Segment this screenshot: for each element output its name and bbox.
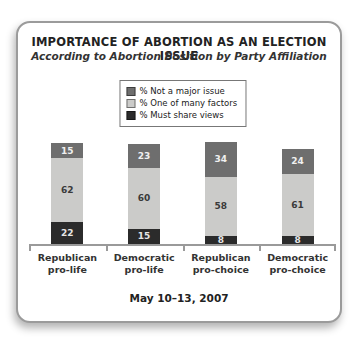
bar-segment: 23	[128, 144, 160, 168]
bar-segment: 58	[205, 177, 237, 236]
bar-segment: 22	[51, 222, 83, 244]
bar-segment: 8	[205, 236, 237, 244]
axis-tick	[334, 246, 336, 251]
x-axis-baseline	[29, 244, 336, 246]
category-label: Democraticpro-life	[106, 252, 183, 276]
bar-column: 236015	[106, 144, 183, 244]
category-labels: Republicanpro-lifeDemocraticpro-lifeRepu…	[29, 252, 336, 276]
bar-segment-value: 34	[215, 155, 228, 163]
bar-segment-value: 15	[138, 232, 151, 240]
stacked-bar: 24618	[282, 149, 314, 244]
bar-segment-value: 15	[61, 147, 74, 155]
bar-segment-value: 24	[291, 157, 304, 165]
stacked-bar: 34588	[205, 142, 237, 244]
bar-segment: 8	[282, 236, 314, 244]
bar-segment-value: 22	[61, 229, 74, 237]
survey-date: May 10–13, 2007	[18, 292, 340, 304]
legend-item-label: % Not a major issue	[139, 86, 224, 97]
bar-segment-value: 8	[294, 236, 300, 244]
axis-tick	[106, 246, 108, 251]
category-label: Republicanpro-life	[29, 252, 106, 276]
stacked-bar: 236015	[128, 144, 160, 244]
bar-segment: 62	[51, 158, 83, 221]
bar-segment-value: 60	[138, 194, 151, 202]
chart-card: IMPORTANCE OF ABORTION AS AN ELECTION IS…	[16, 21, 342, 323]
bar-segment: 24	[282, 149, 314, 174]
legend-item: % Not a major issue	[126, 86, 237, 97]
bar-segment: 60	[128, 168, 160, 229]
bar-segment-value: 61	[291, 201, 304, 209]
bar-segment: 15	[128, 229, 160, 244]
bar-column: 156222	[29, 143, 106, 244]
axis-tick	[259, 246, 261, 251]
chart-area: 1562222360153458824618	[29, 107, 336, 244]
stacked-bar: 156222	[51, 143, 83, 244]
bar-column: 24618	[259, 149, 336, 244]
bar-segment-value: 58	[215, 202, 228, 210]
axis-tick	[183, 246, 185, 251]
bars-row: 1562222360153458824618	[29, 107, 336, 244]
axis-tick	[29, 246, 31, 251]
bar-segment: 34	[205, 142, 237, 177]
chart-subtitle: According to Abortion Position by Party …	[18, 50, 340, 62]
category-label: Democraticpro-choice	[259, 252, 336, 276]
bar-column: 34588	[183, 142, 260, 244]
bar-segment-value: 62	[61, 186, 74, 194]
legend-swatch	[126, 87, 135, 96]
bar-segment-value: 8	[218, 236, 224, 244]
bar-segment-value: 23	[138, 152, 151, 160]
bar-segment: 15	[51, 143, 83, 158]
bar-segment: 61	[282, 174, 314, 236]
category-label: Republicanpro-choice	[183, 252, 260, 276]
